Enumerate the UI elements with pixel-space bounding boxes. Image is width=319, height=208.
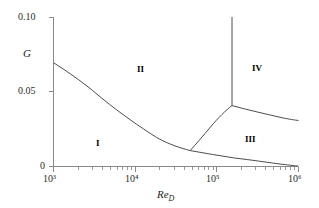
y-tick-label-0: 0	[40, 161, 45, 171]
x-axis-major-ticks	[54, 167, 299, 173]
y-axis-title: G	[23, 48, 31, 59]
region-label-III: III	[245, 135, 256, 144]
y-tick-label-0.05: 0.05	[18, 86, 36, 96]
region-label-IV: IV	[252, 64, 262, 73]
curve-boundary-I-III	[190, 151, 298, 167]
x-tick-label-1e3: 10³	[43, 174, 56, 184]
x-tick-label-1e6: 10⁶	[288, 174, 302, 184]
x-tick-label-1e5: 10⁵	[206, 174, 220, 184]
region-label-I: I	[96, 139, 100, 148]
x-tick-label-1e4: 10⁴	[125, 174, 139, 184]
region-label-II: II	[137, 65, 144, 74]
x-axis-title: ReD	[157, 189, 174, 203]
curve-boundary-III-IV	[232, 106, 299, 121]
y-axis-ticks	[49, 18, 54, 167]
curve-boundary-I-II	[54, 63, 191, 151]
curve-boundary-II-III	[190, 106, 232, 151]
chart-container: 0.10 0.05 0 10³ 10⁴ 10⁵ 10⁶ G ReD I II I…	[0, 0, 319, 208]
y-tick-label-0.10: 0.10	[18, 12, 36, 22]
